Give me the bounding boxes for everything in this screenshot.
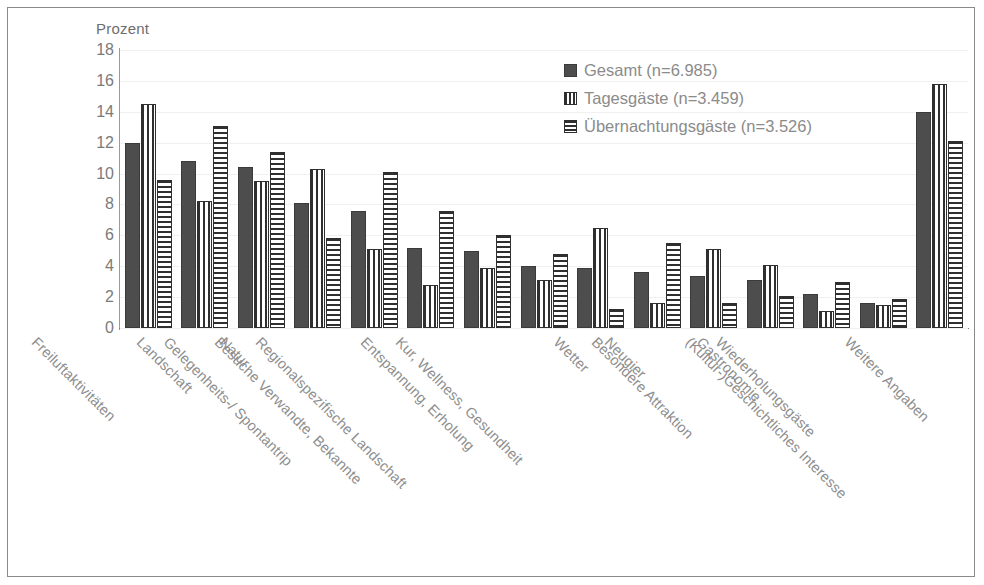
bar: [238, 167, 253, 328]
bar: [803, 294, 818, 328]
bar: [537, 280, 552, 328]
bar: [747, 280, 762, 328]
bar: [609, 309, 624, 328]
x-axis-category-labels: FreiluftaktivitätenLandschaftNaturGelege…: [120, 332, 970, 562]
bar: [634, 272, 649, 328]
legend-swatch-icon: [564, 92, 577, 105]
bar-group: [351, 50, 398, 328]
y-tick-label: 2: [80, 288, 114, 306]
bar: [521, 266, 536, 328]
bar: [650, 303, 665, 328]
y-tick-label: 14: [80, 103, 114, 121]
bar: [577, 268, 592, 328]
bar: [367, 249, 382, 328]
legend-swatch-icon: [564, 120, 577, 133]
bar: [860, 303, 875, 328]
bar-group: [238, 50, 285, 328]
bar: [270, 152, 285, 328]
bar: [480, 268, 495, 328]
bar: [892, 299, 907, 328]
bar: [779, 296, 794, 328]
y-tick-label: 6: [80, 226, 114, 244]
bar: [326, 238, 341, 328]
y-tick-label: 10: [80, 165, 114, 183]
y-tick-label: 18: [80, 41, 114, 59]
chart-frame: Prozent 181614121086420 Freiluftaktivitä…: [7, 7, 975, 577]
bar: [722, 303, 737, 328]
bar: [666, 243, 681, 328]
bar-group: [125, 50, 172, 328]
x-axis-category-label: Freiluftaktivitäten: [29, 334, 119, 424]
y-tick-label: 12: [80, 134, 114, 152]
bar: [439, 211, 454, 328]
bar: [876, 305, 891, 328]
bar: [706, 249, 721, 328]
bar: [593, 228, 608, 328]
bar: [157, 180, 172, 328]
chart-legend: Gesamt (n=6.985)Tagesgäste (n=3.459)Über…: [564, 56, 964, 140]
y-tick-label: 16: [80, 72, 114, 90]
legend-label: Tagesgäste (n=3.459): [584, 89, 744, 108]
bar: [948, 141, 963, 328]
bar: [835, 282, 850, 328]
bar-group: [464, 50, 511, 328]
bar: [690, 276, 705, 329]
x-axis-category-label: Wetter: [551, 334, 593, 376]
bar-group: [181, 50, 228, 328]
bar: [310, 169, 325, 328]
bar-group: [294, 50, 341, 328]
y-axis-tick-labels: 181614121086420: [74, 50, 114, 328]
legend-item: Gesamt (n=6.985): [564, 56, 964, 84]
x-axis-category-label: Weitere Angaben: [842, 334, 933, 425]
bar: [141, 104, 156, 328]
x-axis-category-label: (Kultur-)Geschichtliches Interesse: [683, 334, 851, 502]
bar-group: [407, 50, 454, 328]
bar: [553, 254, 568, 328]
bar: [181, 161, 196, 328]
y-tick-label: 4: [80, 257, 114, 275]
bar: [254, 181, 269, 328]
x-axis-category-label: Besondere Attraktion: [589, 334, 697, 442]
bar: [496, 235, 511, 328]
bar: [819, 311, 834, 328]
bar: [423, 285, 438, 328]
bar-group: [521, 50, 568, 328]
bar: [213, 126, 228, 328]
bar: [351, 211, 366, 328]
gridline: [120, 328, 968, 329]
y-tick-label: 0: [80, 319, 114, 337]
bar: [125, 143, 140, 328]
y-axis-title: Prozent: [96, 20, 149, 37]
bar: [197, 201, 212, 328]
bar: [407, 248, 422, 328]
bar: [916, 112, 931, 328]
legend-item: Tagesgäste (n=3.459): [564, 84, 964, 112]
bar: [294, 203, 309, 328]
legend-item: Übernachtungsgäste (n=3.526): [564, 112, 964, 140]
bar: [763, 265, 778, 328]
y-tick-label: 8: [80, 195, 114, 213]
bar: [383, 172, 398, 328]
legend-label: Gesamt (n=6.985): [584, 61, 717, 80]
legend-swatch-icon: [564, 64, 577, 77]
legend-label: Übernachtungsgäste (n=3.526): [584, 117, 812, 136]
chart-screenshot: Prozent 181614121086420 Freiluftaktivitä…: [0, 0, 984, 585]
bar: [464, 251, 479, 328]
